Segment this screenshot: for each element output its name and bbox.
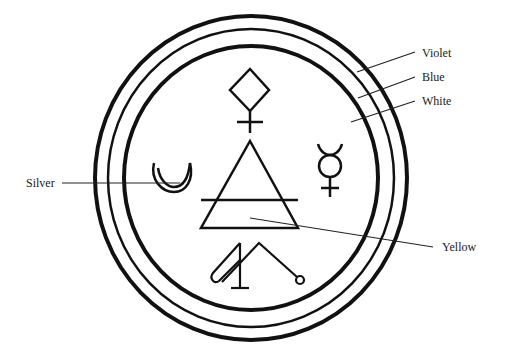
label-yellow: Yellow	[442, 240, 476, 254]
leader-violet	[357, 52, 415, 72]
rings	[95, 16, 407, 340]
crescent-moon-icon	[153, 163, 191, 192]
sigil-icon	[212, 243, 304, 288]
label-white: White	[422, 94, 451, 108]
outer-ring-violet	[95, 16, 407, 340]
air-triangle-icon	[201, 141, 298, 228]
leader-yellow	[250, 218, 433, 247]
label-blue: Blue	[422, 70, 445, 84]
diamond-cross-icon	[230, 69, 269, 133]
middle-ring-blue	[108, 29, 394, 327]
seal-diagram: Violet Blue White Silver Yellow	[0, 0, 506, 358]
label-violet: Violet	[422, 46, 452, 60]
mercury-icon	[318, 144, 342, 197]
label-silver: Silver	[26, 176, 55, 190]
labels: Violet Blue White Silver Yellow	[26, 46, 476, 254]
